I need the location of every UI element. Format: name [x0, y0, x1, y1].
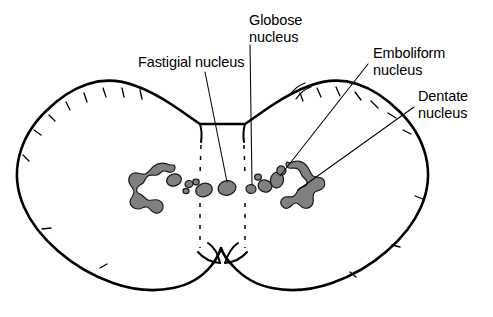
- emboliform-nucleus-label: Emboliform nucleus: [373, 45, 449, 78]
- globose-nucleus-left: [193, 179, 199, 185]
- dentate-label-line2: nucleus: [418, 105, 467, 121]
- globose-label-line2: nucleus: [249, 29, 298, 45]
- globose-nucleus-label: Globose nucleus: [249, 12, 306, 45]
- globose-label-line1: Globose: [249, 12, 302, 28]
- dentate-satellite-left-3: [183, 188, 189, 193]
- diagram-canvas: Fastigial nucleus Globose nucleus Emboli…: [0, 0, 493, 317]
- dentate-nucleus-label: Dentate nucleus: [418, 88, 472, 121]
- fastigial-nucleus-label: Fastigial nucleus: [138, 54, 244, 70]
- emboliform-label-line1: Emboliform: [373, 45, 445, 61]
- cerebellar-nuclei-diagram: Fastigial nucleus Globose nucleus Emboli…: [0, 0, 493, 317]
- dentate-label-line1: Dentate: [418, 88, 468, 104]
- fastigial-label-line1: Fastigial nucleus: [138, 54, 244, 70]
- globose-nucleus-right-accessory: [255, 174, 262, 180]
- emboliform-label-line2: nucleus: [373, 62, 422, 78]
